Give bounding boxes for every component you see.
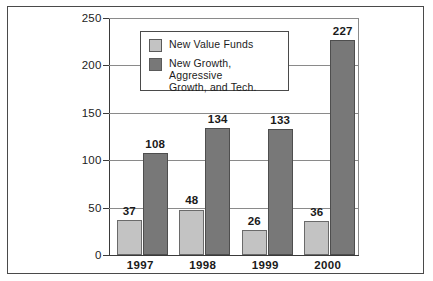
x-tick-label-1997: 1997 (127, 259, 154, 271)
plot-right-edge (358, 18, 359, 255)
legend-item-new-growth: New Growth, Aggressive Growth, and Tech. (149, 57, 281, 93)
y-tick-label-50: 50 (88, 202, 101, 214)
chart-legend: New Value Funds New Growth, Aggressive G… (140, 31, 289, 91)
y-tick-label-200: 200 (82, 59, 102, 71)
x-tick-label-1999: 1999 (252, 259, 279, 271)
chart-figure: 050100150200250 37108481342613336227 199… (7, 6, 424, 274)
legend-label-line-2: Growth, and Tech. (169, 81, 257, 93)
y-tick-mark-150 (103, 113, 109, 114)
bar-1998-series-1 (179, 210, 204, 256)
bar-2000-series-2 (330, 40, 355, 255)
y-tick-mark-0 (103, 255, 109, 256)
legend-label-new-growth: New Growth, Aggressive Growth, and Tech. (169, 57, 281, 93)
x-tick-label-2000: 2000 (314, 259, 341, 271)
legend-item-new-value-funds: New Value Funds (149, 38, 281, 52)
y-tick-label-0: 0 (95, 249, 102, 261)
bar-1998-series-2 (205, 128, 230, 255)
bar-value-label-1997-series-2: 108 (145, 138, 165, 150)
y-axis-line (109, 18, 110, 255)
gridline-250 (109, 18, 359, 19)
bar-value-label-1998-series-2: 134 (208, 113, 228, 125)
bar-value-label-1999-series-2: 133 (270, 114, 290, 126)
bar-value-label-1998-series-1: 48 (185, 194, 198, 206)
bar-value-label-2000-series-1: 36 (310, 206, 323, 218)
bar-1997-series-2 (143, 153, 168, 255)
y-tick-mark-100 (103, 160, 109, 161)
bar-1999-series-1 (242, 230, 267, 255)
bar-value-label-1999-series-1: 26 (248, 215, 261, 227)
bar-2000-series-1 (304, 221, 329, 255)
gridline-150 (109, 113, 359, 114)
y-tick-mark-50 (103, 208, 109, 209)
legend-label-line-1: New Growth, Aggressive (169, 57, 231, 81)
legend-swatch-light (149, 39, 162, 52)
bar-1997-series-1 (117, 220, 142, 255)
y-tick-mark-200 (103, 65, 109, 66)
y-tick-mark-250 (103, 18, 109, 19)
y-tick-label-100: 100 (82, 154, 102, 166)
x-tick-label-1998: 1998 (189, 259, 216, 271)
gridline-0 (109, 255, 359, 256)
bar-value-label-2000-series-2: 227 (333, 25, 353, 37)
legend-swatch-dark (149, 58, 162, 71)
y-tick-label-150: 150 (82, 107, 102, 119)
bar-1999-series-2 (268, 129, 293, 255)
legend-label-new-value-funds: New Value Funds (169, 38, 253, 50)
bar-value-label-1997-series-1: 37 (123, 205, 136, 217)
y-tick-label-250: 250 (82, 12, 102, 24)
